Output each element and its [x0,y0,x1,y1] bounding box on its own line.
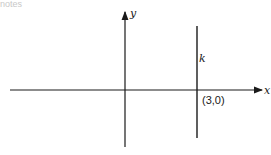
line-k-label: k [199,52,206,65]
point-label: (3,0) [202,94,225,106]
cropped-header-text: notes [0,0,23,9]
diagram: notes x y k (3,0) [0,0,271,155]
y-axis-label: y [129,7,137,20]
x-axis-label: x [264,84,271,97]
